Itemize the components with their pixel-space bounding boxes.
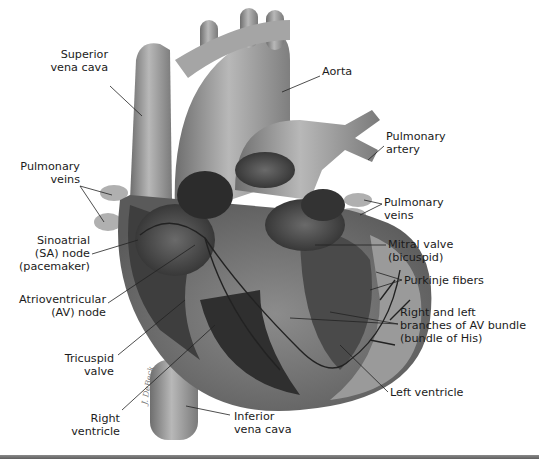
label-left-ventricle: Left ventricle <box>390 386 463 399</box>
label-pulmonary-veins-left: Pulmonary veins <box>0 160 80 186</box>
label-sa-node: Sinoatrial (SA) node (pacemaker) <box>0 234 90 273</box>
label-right-ventricle: Right ventricle <box>60 412 120 438</box>
label-av-node: Atrioventricular (AV) node <box>0 293 106 319</box>
label-aorta: Aorta <box>322 65 352 78</box>
bottom-rule <box>0 455 539 459</box>
superior-vena-cava-vessel <box>130 43 172 200</box>
label-purkinje-fibers: Purkinje fibers <box>404 274 484 287</box>
label-pulmonary-artery: Pulmonary artery <box>386 130 446 156</box>
label-mitral-valve: Mitral valve (bicuspid) <box>388 238 453 264</box>
label-pulmonary-veins-right: Pulmonary veins <box>384 196 444 222</box>
heart-diagram: J. DeBeck Superior vena cava Aorta Pulmo… <box>0 0 539 459</box>
label-av-bundle: Right and left branches of AV bundle (bu… <box>400 306 526 345</box>
label-inferior-vena-cava: Inferior vena cava <box>234 410 292 436</box>
label-tricuspid-valve: Tricuspid valve <box>40 352 114 378</box>
label-superior-vena-cava: Superior vena cava <box>44 48 108 74</box>
